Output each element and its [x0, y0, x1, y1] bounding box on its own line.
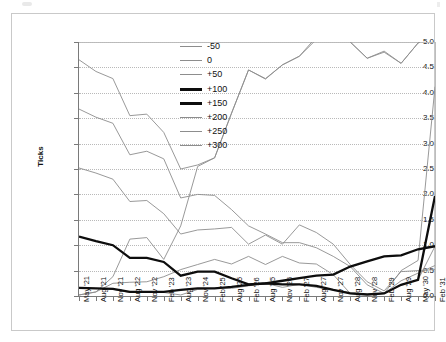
x-axis-tick-mark [350, 297, 351, 301]
legend-item[interactable]: -50 [180, 40, 250, 54]
legend-item[interactable]: +250 [180, 125, 250, 139]
legend-item[interactable]: +300 [180, 139, 250, 153]
x-axis-tick-label: Feb '29 [387, 277, 396, 302]
series-line-plus300 [79, 87, 435, 295]
scan-artifact-right [437, 2, 440, 7]
legend-label: +150 [207, 97, 227, 110]
legend-item[interactable]: +50 [180, 68, 250, 82]
x-axis-tick-mark [249, 297, 250, 301]
x-axis-tick-mark [282, 297, 283, 301]
x-axis-tick-label: May '21 [82, 276, 91, 302]
x-axis-tick-mark [384, 297, 385, 301]
legend-swatch-icon [180, 60, 202, 61]
x-axis-tick-label: Aug '23 [184, 277, 193, 302]
legend-item[interactable]: +200 [180, 111, 250, 125]
x-axis-tick-mark [181, 297, 182, 301]
x-axis-tick-mark [113, 297, 114, 301]
legend-item[interactable]: +150 [180, 97, 250, 111]
legend-label: -50 [207, 40, 220, 53]
x-axis-tick-label: Aug '22 [133, 277, 142, 302]
x-axis-tick-mark [299, 297, 300, 301]
x-axis-tick-mark [367, 297, 368, 301]
legend-swatch-icon [180, 74, 202, 75]
x-axis-tick-label: Feb '23 [167, 277, 176, 302]
legend-swatch-icon [180, 88, 202, 91]
x-axis-tick-mark [265, 297, 266, 301]
series-line-plus250 [79, 24, 435, 295]
x-axis-tick-mark [96, 297, 97, 301]
legend-label: +50 [207, 68, 222, 81]
legend-label: +250 [207, 125, 227, 138]
x-axis-tick-mark [316, 297, 317, 301]
legend-label: +100 [207, 83, 227, 96]
x-axis-tick-label: Aug '21 [99, 277, 108, 302]
x-axis-tick-mark [333, 297, 334, 301]
legend-swatch-icon [180, 117, 202, 118]
x-axis-tick-label: Aug '25 [235, 277, 244, 302]
scan-artifact [22, 2, 32, 6]
series-lines [79, 42, 435, 296]
legend-item[interactable]: 0 [180, 54, 250, 68]
x-axis-tick-label: Aug '29 [404, 277, 413, 302]
legend-swatch-icon [180, 145, 202, 146]
legend-swatch-icon [180, 131, 202, 132]
x-axis-tick-mark [147, 297, 148, 301]
legend-swatch-icon [180, 102, 202, 105]
figure-frame: Ticks 0.00.51.01.52.02.53.03.54.04.55.0 … [11, 13, 435, 331]
x-axis-tick-label: May '30 [421, 276, 430, 302]
x-axis-tick-mark [435, 297, 436, 301]
legend: -500+50+100+150+200+250+300 [180, 40, 250, 154]
x-axis-tick-label: Aug '27 [319, 277, 328, 302]
x-axis-tick-label: Feb '26 [252, 277, 261, 302]
x-axis-tick-mark [215, 297, 216, 301]
x-axis-tick-mark [164, 297, 165, 301]
x-axis-tick-label: Nov '27 [336, 277, 345, 302]
plot-border-right [435, 42, 436, 297]
plot-area [79, 42, 435, 296]
x-axis-tick-mark [401, 297, 402, 301]
legend-label: +300 [207, 139, 227, 152]
x-axis-tick-label: Aug '28 [353, 277, 362, 302]
x-axis-tick-mark [79, 297, 80, 301]
legend-item[interactable]: +100 [180, 83, 250, 97]
x-axis-tick-label: Nov '28 [370, 277, 379, 302]
x-axis-tick-label: Nov '26 [285, 277, 294, 302]
series-line-minus50 [79, 22, 435, 169]
x-axis-tick-mark [130, 297, 131, 301]
legend-swatch-icon [180, 46, 202, 47]
legend-label: 0 [207, 54, 212, 67]
x-axis-tick-label: Nov '24 [201, 277, 210, 302]
y-axis-title: Ticks [36, 127, 45, 187]
legend-label: +200 [207, 111, 227, 124]
chart-screenshot: Ticks 0.00.51.01.52.02.53.03.54.04.55.0 … [0, 0, 446, 342]
series-line-plus200 [79, 168, 435, 291]
x-axis-tick-label: Feb '25 [218, 277, 227, 302]
x-axis-tick-mark [232, 297, 233, 301]
x-axis-tick-mark [418, 297, 419, 301]
x-axis-tick-label: Feb '27 [302, 277, 311, 302]
x-axis-tick-mark [198, 297, 199, 301]
x-axis-tick-label: Aug '25 [268, 277, 277, 302]
x-axis-tick-label: Nov '21 [116, 277, 125, 302]
x-axis-tick-label: Nov '22 [150, 277, 159, 302]
x-axis-tick-label: Feb '31 [438, 277, 446, 302]
